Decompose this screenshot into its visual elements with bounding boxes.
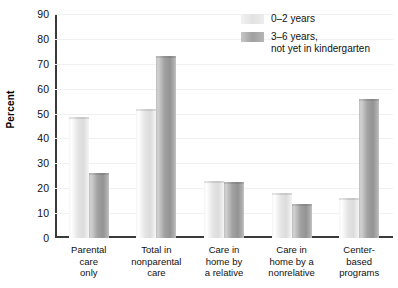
y-axis-tick-label: 40 <box>9 132 49 144</box>
bar <box>69 117 89 238</box>
legend-swatch-series-2 <box>241 32 264 42</box>
legend-label-series-1: 0–2 years <box>271 13 315 25</box>
bar <box>89 173 109 238</box>
y-axis-tick-label: 90 <box>9 8 49 20</box>
legend-item: 0–2 years <box>241 13 370 25</box>
legend-item: 3–6 years, not yet in kindergarten <box>241 31 370 55</box>
y-axis-tick-label: 10 <box>9 207 49 219</box>
y-axis-tick-label: 50 <box>9 108 49 120</box>
bar <box>136 109 156 238</box>
y-axis-tick-label: 70 <box>9 58 49 70</box>
bar <box>339 198 359 238</box>
y-axis-tick-label: 60 <box>9 83 49 95</box>
legend-label-series-2: 3–6 years, not yet in kindergarten <box>271 31 370 55</box>
y-axis-tick-label: 20 <box>9 182 49 194</box>
bar <box>359 99 379 238</box>
x-axis-tick-label: Parental care only <box>55 244 123 279</box>
bar <box>204 181 224 238</box>
y-axis-tick-label: 0 <box>9 232 49 244</box>
x-axis-tick-label: Total in nonparental care <box>123 244 191 279</box>
bar-chart: Percent 0102030405060708090 Parental car… <box>0 0 398 288</box>
x-axis-tick-label: Care in home by a relative <box>190 244 258 279</box>
bar <box>156 56 176 238</box>
bar <box>224 182 244 238</box>
bar <box>272 193 292 238</box>
x-axis-tick-label: Center- based programs <box>325 244 393 279</box>
legend: 0–2 years 3–6 years, not yet in kinderga… <box>241 13 370 61</box>
legend-swatch-series-1 <box>241 14 264 24</box>
bar-pair <box>55 14 123 238</box>
bar <box>292 204 312 238</box>
bar-group <box>123 14 191 238</box>
bar-group <box>55 14 123 238</box>
x-axis-tick-label: Care in home by a nonrelative <box>258 244 326 279</box>
y-axis-tick-label: 30 <box>9 157 49 169</box>
y-axis-tick-label: 80 <box>9 33 49 45</box>
bar-pair <box>123 14 191 238</box>
